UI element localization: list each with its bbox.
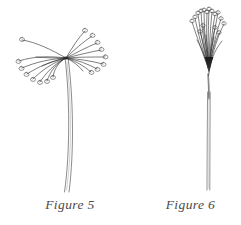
figure-5-drawing: [0, 0, 140, 200]
figure-6-node: [205, 57, 214, 100]
figure-6-drawing: [140, 0, 241, 200]
illustration-plate: Figure 5: [0, 0, 241, 225]
figure-5-bud-tips: [16, 28, 108, 85]
figure-5-caption: Figure 5: [0, 197, 140, 213]
figure-5-stem: [65, 59, 73, 192]
figure-5-node: [63, 56, 68, 59]
figure-panel-6: Figure 6: [140, 0, 241, 225]
figure-6-stem: [207, 92, 210, 190]
figure-panel-5: Figure 5: [0, 0, 140, 225]
figure-6-caption: Figure 6: [140, 197, 241, 213]
